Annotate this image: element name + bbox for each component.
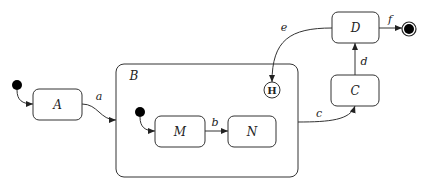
state-a[interactable]: A — [33, 89, 82, 120]
transition-c-label: c — [316, 107, 322, 120]
transition-a — [82, 104, 116, 120]
state-diagram: A a B M b N H c C d D e — [0, 0, 431, 188]
state-n[interactable]: N — [228, 116, 276, 147]
initial-state-inner — [135, 107, 145, 117]
transition-e-label: e — [281, 21, 288, 34]
state-d-label: D — [350, 21, 361, 35]
state-n-label: N — [246, 125, 258, 139]
state-b-label: B — [129, 69, 139, 83]
transition-b-label: b — [211, 116, 218, 129]
initial-state-outer — [12, 80, 22, 90]
state-m-label: M — [173, 125, 187, 139]
state-a-label: A — [52, 98, 62, 112]
state-d[interactable]: D — [332, 12, 379, 43]
state-m[interactable]: M — [155, 116, 205, 147]
transition-f-label: f — [387, 13, 394, 26]
transition-c — [298, 106, 355, 122]
transition-a-label: a — [96, 90, 103, 103]
initial-transition-outer — [17, 90, 33, 104]
final-state — [402, 22, 416, 36]
state-c-label: C — [350, 84, 359, 98]
history-state-label: H — [267, 85, 276, 96]
history-state[interactable]: H — [264, 82, 280, 98]
transition-d-label: d — [360, 55, 367, 68]
state-c[interactable]: C — [331, 75, 379, 106]
